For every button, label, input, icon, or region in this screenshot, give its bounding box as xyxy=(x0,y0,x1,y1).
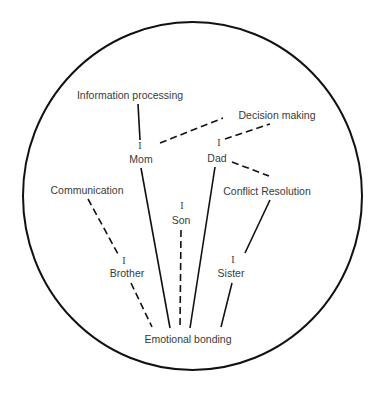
line-conflict-resolution-sister xyxy=(245,200,270,253)
dad-marker-icon: I xyxy=(217,138,220,148)
label-dad: Dad xyxy=(207,153,226,164)
label-communication: Communication xyxy=(51,185,124,196)
label-emotional-bonding: Emotional bonding xyxy=(145,334,232,345)
label-conflict-resolution: Conflict Resolution xyxy=(223,186,311,197)
line-sister-emotional-bonding xyxy=(221,283,232,327)
label-information-processing: Information processing xyxy=(77,90,183,101)
line-son-emotional-bonding xyxy=(180,230,181,327)
line-mom-decision-making xyxy=(160,118,223,143)
sister-marker-icon: I xyxy=(231,255,234,265)
label-sister: Sister xyxy=(218,268,245,279)
label-son: Son xyxy=(172,215,191,226)
line-brother-emotional-bonding xyxy=(131,283,152,327)
son-marker-icon: I xyxy=(180,201,183,211)
line-dad-decision-making xyxy=(225,124,270,139)
line-dad-conflict-resolution xyxy=(232,162,269,176)
label-mom: Mom xyxy=(129,154,152,165)
line-communication-brother xyxy=(88,199,118,254)
line-info-processing-mom xyxy=(138,104,140,140)
mom-marker-icon: I xyxy=(138,141,141,151)
brother-marker-icon: I xyxy=(122,256,125,266)
label-brother: Brother xyxy=(110,268,144,279)
line-dad-emotional-bonding xyxy=(190,167,215,328)
label-decision-making: Decision making xyxy=(238,110,315,121)
line-mom-emotional-bonding xyxy=(141,168,170,328)
